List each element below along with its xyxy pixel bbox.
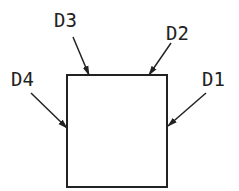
- arrow-d2: [149, 43, 171, 75]
- diagram-canvas: D1 D2 D3 D4: [0, 0, 239, 191]
- label-d3: D3: [54, 9, 77, 31]
- label-d4: D4: [11, 68, 34, 90]
- arrow-d1: [168, 93, 206, 126]
- arrow-d3: [73, 37, 89, 75]
- label-d2: D2: [166, 22, 189, 44]
- arrow-d4: [31, 93, 67, 128]
- square-box: [67, 75, 167, 187]
- label-d1: D1: [202, 68, 225, 90]
